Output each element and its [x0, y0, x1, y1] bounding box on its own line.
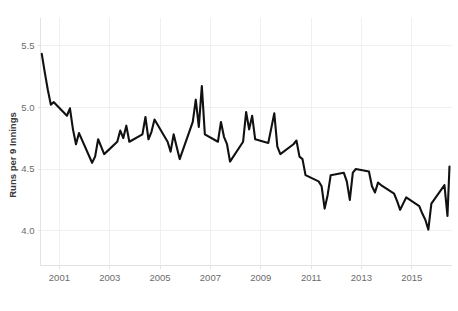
- x-tick-label: 2011: [301, 272, 321, 283]
- y-tick-label: 4.0: [21, 225, 34, 236]
- x-tick-label: 2007: [200, 272, 221, 283]
- x-tick-label: 2009: [250, 272, 271, 283]
- y-axis-title: Runs per 9 Innings: [7, 112, 18, 198]
- chart-figure: 5.55.04.54.0 200120032005200720092011201…: [0, 0, 458, 311]
- x-tick-label: 2005: [149, 272, 170, 283]
- y-tick-label: 5.0: [21, 102, 34, 113]
- runs-per-9-innings-line-chart: 5.55.04.54.0 200120032005200720092011201…: [0, 0, 458, 311]
- x-tick-label: 2013: [351, 272, 372, 283]
- y-tick-label: 5.5: [21, 40, 34, 51]
- x-tick-label: 2015: [401, 272, 422, 283]
- y-tick-label: 4.5: [21, 163, 34, 174]
- x-tick-label: 2003: [99, 272, 120, 283]
- x-tick-label: 2001: [49, 272, 70, 283]
